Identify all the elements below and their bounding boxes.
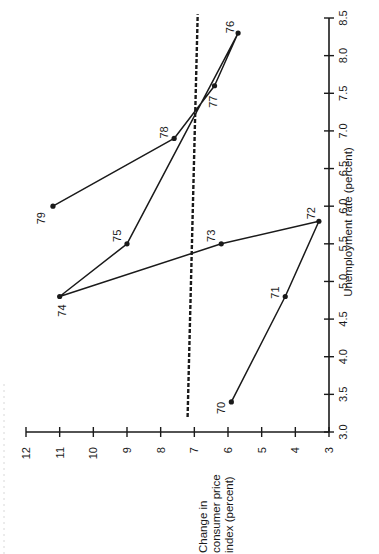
unemployment-tick-label: 3.0 — [337, 424, 349, 439]
data-point-marker — [316, 219, 321, 224]
data-point-marker — [229, 399, 234, 404]
point-label-76: 76 — [224, 21, 236, 33]
point-labels: 70717273747576777879 — [35, 21, 317, 414]
unemployment-tick-label: 4.0 — [337, 349, 349, 364]
unemployment-tick-label: 8.5 — [337, 10, 349, 25]
inflation-unemployment-path — [53, 33, 319, 402]
cpi-tick-label: 7 — [188, 447, 200, 453]
data-point-marker — [283, 294, 288, 299]
point-label-75: 75 — [111, 230, 123, 242]
point-label-71: 71 — [269, 286, 281, 298]
cpi-tick-label: 6 — [222, 447, 234, 453]
y-axis-title-line-1: Change in — [197, 501, 209, 553]
cpi-tick-label: 8 — [155, 447, 167, 453]
axis-titles: Unemployment rate (percent) Change in co… — [197, 147, 354, 553]
point-label-73: 73 — [205, 230, 217, 242]
point-label-77: 77 — [207, 96, 219, 108]
cpi-tick-label: 11 — [54, 447, 66, 458]
point-label-70: 70 — [215, 402, 227, 414]
unemployment-tick-label: 3.5 — [337, 387, 349, 402]
point-label-74: 74 — [56, 304, 68, 316]
cpi-tick-label: 9 — [121, 447, 133, 453]
x-axis-title: Unemployment rate (percent) — [342, 147, 354, 297]
data-point-marker — [50, 204, 55, 209]
data-point-marker — [219, 241, 224, 246]
data-point-marker — [236, 30, 241, 35]
data-point-marker — [172, 136, 177, 141]
cpi-tick-label: 3 — [323, 447, 335, 453]
dashed-trend-line — [188, 14, 198, 417]
cpi-tick-label: 4 — [289, 447, 301, 453]
data-point-marker — [124, 241, 129, 246]
cpi-tick-label: 12 — [20, 447, 32, 459]
point-label-79: 79 — [35, 212, 47, 224]
data-series — [50, 30, 321, 404]
point-label-72: 72 — [305, 207, 317, 219]
axes: 34567891011123.03.54.04.55.05.56.06.57.0… — [20, 10, 349, 459]
cpi-tick-label: 5 — [256, 447, 268, 453]
cpi-tick-label: 10 — [87, 447, 99, 459]
unemployment-tick-label: 4.5 — [337, 311, 349, 326]
point-label-78: 78 — [158, 126, 170, 138]
unemployment-tick-label: 7.5 — [337, 86, 349, 101]
y-axis-title-line-2: consumer price — [210, 474, 222, 553]
data-point-marker — [212, 83, 217, 88]
trend-line — [188, 14, 198, 417]
unemployment-tick-label: 7.0 — [337, 123, 349, 138]
phillips-curve-chart: 34567891011123.03.54.04.55.05.56.06.57.0… — [0, 0, 379, 554]
data-point-marker — [57, 294, 62, 299]
y-axis-title-line-3: index (percent) — [223, 476, 235, 553]
unemployment-tick-label: 8.0 — [337, 48, 349, 63]
